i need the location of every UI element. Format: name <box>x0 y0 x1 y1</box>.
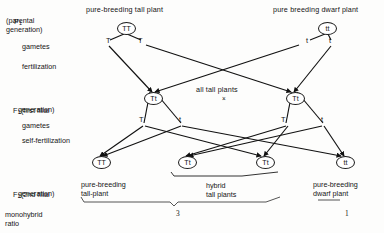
gamete-f1-t-2: t <box>179 116 181 124</box>
monohybrid-cross-diagram: pure-breeding tall plant pure breeding d… <box>0 0 384 233</box>
hybrid-bracket <box>171 172 278 176</box>
gamete-p1-t-2: T <box>138 37 143 45</box>
gamete-p1-t-4: t <box>329 37 331 45</box>
ratio-3-bracket <box>81 197 280 206</box>
stage-label-f2-line2: generation) <box>18 189 54 199</box>
genotype-circle-p1-tt-recessive: tt <box>318 22 337 35</box>
stage-label-monohybrid-line2: ratio <box>5 219 19 229</box>
genotype-circle-f2-3: Tt <box>256 156 275 169</box>
cross-symbol: × <box>222 95 226 102</box>
f2-caption-3-line1: pure-breeding <box>313 180 358 189</box>
gamete-f1-t-1: T <box>139 116 144 124</box>
genotype-circle-f2-1: TT <box>92 156 111 169</box>
title-pure-breeding-tall: pure-breeding tall plant <box>86 5 163 14</box>
genotype-circle-f1-left: Tt <box>144 92 163 105</box>
all-tall-plants-note: all tall plants <box>196 85 238 94</box>
gamete-p1-t-1: T <box>106 37 111 45</box>
stage-label-gametes-2: gametes <box>22 121 50 131</box>
genotype-circle-p1-tt-dominant: TT <box>117 22 136 35</box>
gamete-f1-t-4: t <box>321 116 323 124</box>
stage-label-gametes-1: gametes <box>22 42 50 52</box>
ratio-value-1: 1 <box>345 210 349 218</box>
ratio-value-3: 3 <box>176 210 180 218</box>
genotype-circle-f1-right: Tt <box>286 92 305 105</box>
f2-caption-2-line1: hybrid <box>206 181 226 190</box>
genotype-circle-f2-4: tt <box>336 156 355 169</box>
f2-caption-2-line2: tall plants <box>206 190 236 199</box>
f2-caption-1-line2: tall-plant <box>81 189 108 198</box>
title-pure-breeding-dwarf: pure breeding dwarf plant <box>273 5 358 14</box>
f2-caption-1-line1: pure-breeding <box>81 180 126 189</box>
gamete-p1-t-3: t <box>306 37 308 45</box>
f2-caption-3-line2: dwarf plant <box>313 189 348 198</box>
stage-label-p1-line3: generation) <box>6 25 42 35</box>
stage-label-self-fertilization: self-fertilization <box>22 136 70 146</box>
genotype-circle-f2-2: Tt <box>178 156 197 169</box>
gamete-f1-t-3: T <box>281 116 286 124</box>
stage-label-f1-line2: generation) <box>18 105 54 115</box>
stage-label-fertilization: fertilization <box>22 62 56 72</box>
